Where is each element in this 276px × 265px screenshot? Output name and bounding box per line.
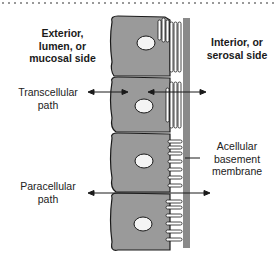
exterior-label: Exterior, lumen, or mucosal side xyxy=(10,27,115,65)
interior-label-line: serosal side xyxy=(200,49,274,62)
basement-membrane xyxy=(183,18,190,248)
epithelial-cell-3 xyxy=(111,133,171,192)
transcellular-arrow-left xyxy=(88,90,128,95)
nucleus-icon xyxy=(135,154,153,168)
paracellular-label: Paracellular path xyxy=(8,180,88,205)
paracellular-label-line: Paracellular xyxy=(8,180,88,193)
transcellular-label-line: path xyxy=(8,99,88,112)
exterior-label-line: Exterior, xyxy=(10,27,115,40)
nucleus-icon xyxy=(137,36,155,50)
exterior-label-line: lumen, or xyxy=(10,40,115,53)
basement-label-line: Acellular xyxy=(200,140,274,153)
epithelial-cell-2 xyxy=(111,77,171,132)
basement-label-line: membrane xyxy=(200,165,274,178)
basement-label-line: basement xyxy=(200,153,274,166)
paracellular-label-line: path xyxy=(8,193,88,206)
interior-label: Interior, or serosal side xyxy=(200,36,274,61)
nucleus-icon xyxy=(135,99,153,113)
exterior-label-line: mucosal side xyxy=(10,52,115,65)
interior-label-line: Interior, or xyxy=(200,36,274,49)
basement-membrane-label: Acellular basement membrane xyxy=(200,140,274,178)
nucleus-icon xyxy=(134,217,152,231)
transcellular-label: Transcellular path xyxy=(8,86,88,111)
epithelial-cell-4 xyxy=(111,193,171,250)
transcellular-label-line: Transcellular xyxy=(8,86,88,99)
